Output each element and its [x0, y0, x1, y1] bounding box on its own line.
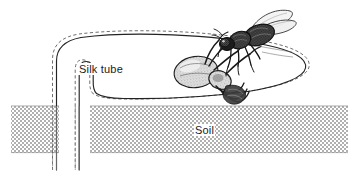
fly-illustration — [212, 10, 296, 76]
tube-walls-in-soil — [57, 106, 80, 170]
figure-illustration — [0, 0, 359, 178]
soil-overlay — [12, 107, 348, 152]
figure-root: Silk tube Soil — [0, 0, 359, 178]
silk-tube-label: Silk tube — [78, 63, 124, 75]
soil-label: Soil — [194, 124, 215, 136]
